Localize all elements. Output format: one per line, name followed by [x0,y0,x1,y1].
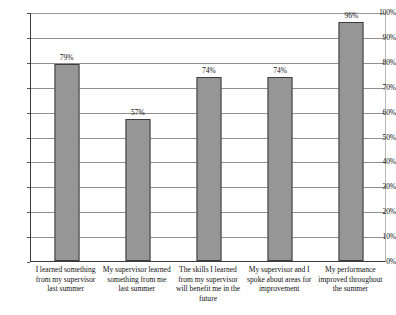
bar-chart: 79%57%74%74%96% I learned something from… [0,0,396,315]
plot-area: 79%57%74%74%96% [30,13,386,262]
bar-value-label: 74% [202,66,216,75]
y-axis-tick-label: 40% [368,158,396,166]
bar[interactable] [268,77,293,261]
y-axis-tick-label: 10% [368,233,396,241]
y-axis-tick-label: 20% [368,208,396,216]
bar[interactable] [196,77,221,261]
bar-slot: 79% [31,13,102,261]
y-axis-tick-label: 30% [368,183,396,191]
y-axis-tick-mark [27,212,30,213]
bar[interactable] [54,64,79,261]
y-axis-tick-mark [27,63,30,64]
bar-slot: 74% [173,13,244,261]
y-axis-tick-label: 90% [368,34,396,42]
bar-value-label: 57% [131,108,145,117]
y-axis-tick-mark [27,138,30,139]
y-axis-tick-label: 60% [368,109,396,117]
bar-slot: 57% [102,13,173,261]
y-axis-tick-label: 70% [368,84,396,92]
bar-value-label: 79% [60,53,74,62]
category-label: My supervisor learned something from me … [101,265,172,294]
bar-slot: 74% [245,13,316,261]
category-label: My supervisor and I spoke about areas fo… [244,265,315,294]
bar[interactable] [125,119,150,261]
y-axis-tick-label: 80% [368,59,396,67]
y-axis-tick-mark [27,13,30,14]
category-label: My performance improved throughout the s… [315,265,386,294]
y-axis-tick-label: 50% [368,134,396,142]
y-axis-tick-mark [27,237,30,238]
y-axis-tick-mark [27,88,30,89]
y-axis-tick-mark [27,162,30,163]
y-axis-tick-mark [27,262,30,263]
y-axis-tick-mark [27,38,30,39]
category-label: The skills I learned from my supervisor … [172,265,243,303]
y-axis-tick-mark [27,187,30,188]
category-label: I learned something from my supervisor l… [30,265,101,294]
bar[interactable] [339,22,364,261]
y-axis-tick-mark [27,113,30,114]
y-axis-tick-label: 0% [368,258,396,266]
bar-value-label: 96% [345,11,359,20]
bar-value-label: 74% [273,66,287,75]
category-axis-labels: I learned something from my supervisor l… [30,265,386,313]
y-axis-tick-label: 100% [368,9,396,17]
